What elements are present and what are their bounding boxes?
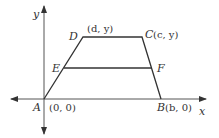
label-a: A bbox=[32, 101, 41, 114]
trapezoid bbox=[44, 37, 161, 99]
label-e: E bbox=[51, 62, 60, 75]
label-f: F bbox=[156, 62, 165, 75]
label-b: B bbox=[156, 101, 165, 114]
label-d: D bbox=[68, 30, 78, 43]
x-axis-label: x bbox=[199, 105, 206, 118]
trapezoid-diagram: x y A (0, 0) B (b, 0) C (c, y) D (d, y) … bbox=[0, 0, 219, 138]
coord-b: (b, 0) bbox=[165, 102, 192, 113]
coord-d: (d, y) bbox=[87, 23, 113, 34]
coord-c: (c, y) bbox=[153, 29, 179, 40]
coord-a: (0, 0) bbox=[49, 102, 76, 113]
y-axis-label: y bbox=[32, 8, 40, 21]
